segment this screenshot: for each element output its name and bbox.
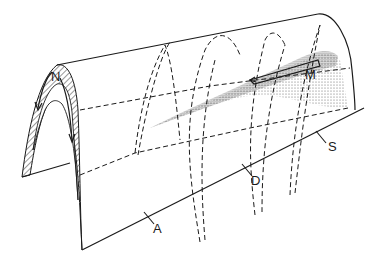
- half-cylinder-diagram: [0, 0, 365, 266]
- label-s: S: [328, 140, 337, 153]
- label-m: M: [305, 68, 316, 81]
- label-d: D: [251, 174, 260, 187]
- label-a: A: [153, 222, 162, 235]
- label-n: N: [51, 70, 60, 83]
